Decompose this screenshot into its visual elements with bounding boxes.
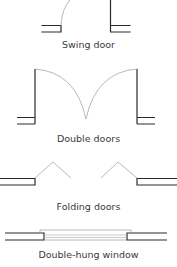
- swing-door-left-wall: [42, 26, 61, 33]
- double-doors-label: Double doors: [0, 133, 177, 145]
- double-doors-left-arc: [35, 69, 86, 119]
- double-doors-left-wall: [17, 69, 35, 124]
- window-frame: [40, 230, 131, 233]
- folding-doors-right-wall: [137, 179, 177, 186]
- swing-door-arc: [61, 0, 70, 25]
- folding-doors-symbol: [0, 162, 177, 185]
- swing-door-label: Swing door: [0, 39, 177, 51]
- double-hung-window-label: Double-hung window: [0, 249, 177, 261]
- folding-doors-right-leaf: [101, 162, 137, 178]
- swing-door-right-wall: [111, 0, 131, 32]
- double-doors-symbol: [17, 69, 155, 124]
- double-hung-window-symbol: [5, 230, 167, 240]
- folding-doors-label: Folding doors: [0, 201, 177, 213]
- double-doors-right-wall: [137, 69, 155, 124]
- window-left-wall: [5, 233, 44, 240]
- double-doors-right-arc: [86, 69, 137, 119]
- folding-doors-left-wall: [0, 179, 35, 186]
- window-right-wall: [127, 233, 167, 240]
- swing-door-symbol: [42, 0, 130, 32]
- folding-doors-left-leaf: [35, 162, 71, 178]
